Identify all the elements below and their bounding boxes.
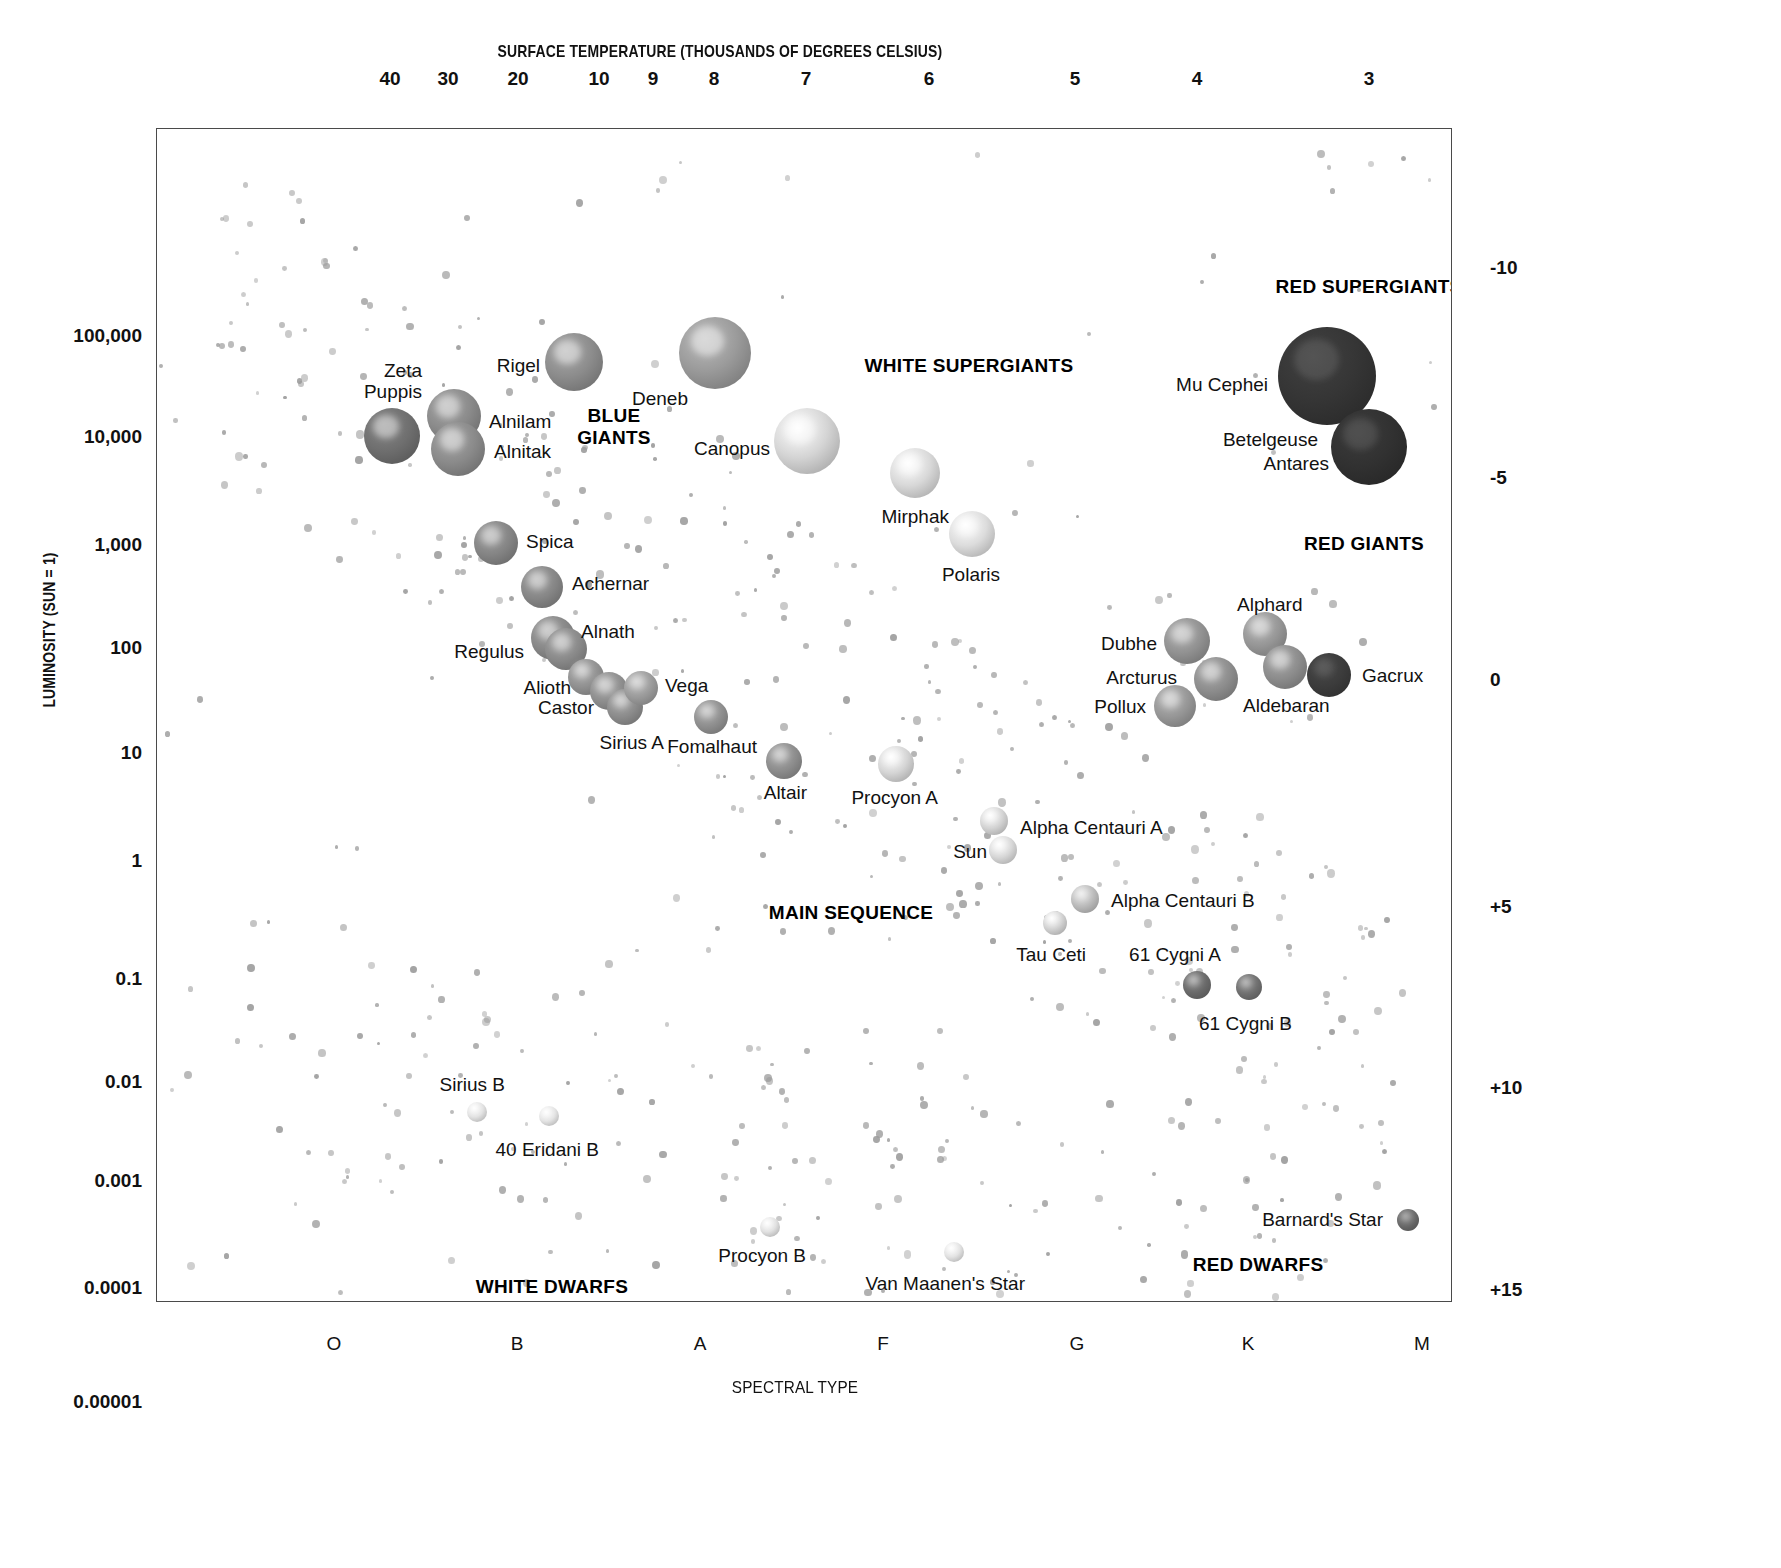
background-speck bbox=[1281, 894, 1287, 900]
background-speck bbox=[394, 1109, 401, 1117]
background-speck bbox=[223, 215, 229, 221]
star-61-cygni-b[interactable] bbox=[1236, 974, 1262, 1000]
bottom-axis-title: SPECTRAL TYPE bbox=[206, 1378, 1385, 1398]
background-speck bbox=[329, 348, 336, 355]
background-speck bbox=[1077, 772, 1084, 780]
background-speck bbox=[372, 530, 377, 535]
background-speck bbox=[312, 1220, 320, 1228]
background-speck bbox=[1187, 1280, 1193, 1287]
background-speck bbox=[159, 364, 163, 368]
star-procyon-a[interactable] bbox=[878, 746, 914, 782]
star-betelgeuse[interactable] bbox=[1331, 409, 1407, 485]
background-speck bbox=[980, 1181, 984, 1185]
background-speck bbox=[809, 532, 815, 538]
background-speck bbox=[250, 920, 257, 927]
background-speck bbox=[1068, 854, 1074, 861]
background-speck bbox=[282, 266, 287, 271]
background-speck bbox=[680, 517, 687, 525]
star-achernar[interactable] bbox=[521, 566, 563, 608]
star-40-eridani-b[interactable] bbox=[539, 1106, 559, 1126]
background-speck bbox=[552, 993, 559, 1001]
background-speck bbox=[1276, 914, 1282, 921]
star-rigel[interactable] bbox=[545, 333, 603, 391]
star-alpha-centauri-b[interactable] bbox=[1071, 885, 1099, 913]
star-canopus[interactable] bbox=[774, 408, 840, 474]
star-alpha-centauri-a[interactable] bbox=[980, 807, 1008, 835]
background-speck bbox=[243, 454, 247, 459]
spectral-tick-K: K bbox=[1242, 1333, 1255, 1355]
star-label-tau-ceti: Tau Ceti bbox=[1016, 944, 1086, 965]
background-speck bbox=[361, 298, 368, 305]
background-speck bbox=[1060, 1142, 1065, 1147]
background-speck bbox=[367, 302, 373, 308]
star-barnard-s-star[interactable] bbox=[1397, 1209, 1419, 1231]
background-speck bbox=[1343, 976, 1347, 980]
background-speck bbox=[285, 330, 292, 337]
background-speck bbox=[1353, 1029, 1359, 1035]
background-speck bbox=[920, 1101, 928, 1109]
star-label-polaris: Polaris bbox=[942, 564, 1000, 585]
background-speck bbox=[1184, 1224, 1189, 1229]
star-sun[interactable] bbox=[989, 836, 1017, 864]
background-speck bbox=[913, 716, 921, 724]
background-speck bbox=[1105, 910, 1110, 915]
background-speck bbox=[977, 702, 983, 708]
background-speck bbox=[221, 481, 229, 489]
star-61-cygni-a[interactable] bbox=[1183, 971, 1211, 999]
background-speck bbox=[723, 775, 726, 778]
star-tau-ceti[interactable] bbox=[1043, 911, 1067, 935]
background-speck bbox=[971, 1106, 974, 1110]
background-speck bbox=[1068, 939, 1072, 943]
background-speck bbox=[899, 856, 905, 863]
background-speck bbox=[953, 912, 960, 919]
background-speck bbox=[1359, 1124, 1364, 1129]
background-speck bbox=[1253, 1235, 1257, 1239]
star-spica[interactable] bbox=[474, 521, 518, 565]
background-speck bbox=[377, 1042, 380, 1046]
star-zeta-puppis[interactable] bbox=[364, 408, 420, 464]
star-label-barnard-s-star: Barnard's Star bbox=[1262, 1209, 1383, 1230]
star-mirphak[interactable] bbox=[890, 448, 940, 498]
background-speck bbox=[1142, 754, 1150, 762]
background-speck bbox=[975, 882, 983, 890]
background-speck bbox=[197, 696, 203, 703]
background-speck bbox=[934, 527, 939, 532]
background-speck bbox=[323, 263, 329, 270]
star-fomalhaut[interactable] bbox=[694, 700, 728, 734]
background-speck bbox=[1178, 1122, 1185, 1129]
star-aldebaran[interactable] bbox=[1263, 645, 1307, 689]
star-deneb[interactable] bbox=[679, 317, 751, 389]
background-speck bbox=[564, 1162, 568, 1166]
background-speck bbox=[1181, 1250, 1189, 1258]
star-procyon-b[interactable] bbox=[760, 1217, 780, 1237]
background-speck bbox=[356, 430, 364, 438]
star-gacrux[interactable] bbox=[1307, 653, 1351, 697]
star-sirius-b[interactable] bbox=[467, 1102, 487, 1122]
background-speck bbox=[184, 1071, 192, 1079]
background-speck bbox=[448, 1257, 455, 1264]
background-speck bbox=[869, 755, 876, 762]
background-speck bbox=[458, 325, 462, 329]
star-label-gacrux: Gacrux bbox=[1362, 665, 1423, 686]
star-vega[interactable] bbox=[624, 671, 658, 705]
star-pollux[interactable] bbox=[1154, 685, 1196, 727]
star-altair[interactable] bbox=[766, 743, 802, 779]
star-alnitak[interactable] bbox=[431, 422, 485, 476]
background-speck bbox=[969, 647, 976, 655]
background-speck bbox=[835, 819, 840, 824]
star-arcturus[interactable] bbox=[1194, 657, 1238, 701]
background-speck bbox=[466, 1134, 472, 1140]
background-speck bbox=[904, 1250, 912, 1258]
background-speck bbox=[802, 772, 807, 778]
background-speck bbox=[1323, 1258, 1328, 1263]
star-van-maanen-s-star[interactable] bbox=[944, 1242, 964, 1262]
background-speck bbox=[869, 590, 874, 595]
star-label-achernar: Achernar bbox=[572, 573, 649, 594]
background-speck bbox=[1046, 1252, 1050, 1256]
background-speck bbox=[768, 1166, 772, 1170]
background-speck bbox=[781, 295, 785, 299]
background-speck bbox=[279, 322, 285, 328]
star-polaris[interactable] bbox=[949, 511, 995, 557]
background-speck bbox=[1252, 1204, 1259, 1211]
star-dubhe[interactable] bbox=[1164, 618, 1210, 664]
